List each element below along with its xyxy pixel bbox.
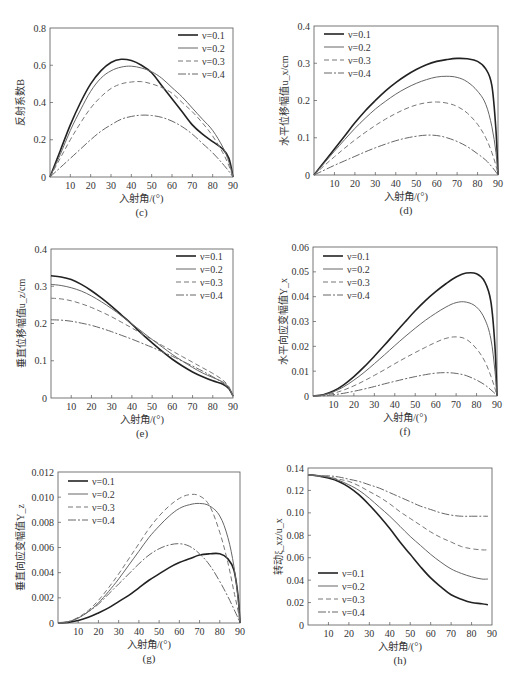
legend-label: ν=0.4 [348,68,371,79]
chart-panel-f: 10203040506070809000.010.020.030.040.050… [277,242,502,439]
y-tick-label: 0.06 [287,552,305,563]
legend-label: ν=0.1 [202,30,225,41]
y-tick-label: 0 [299,620,304,631]
legend-label: ν=0.4 [200,290,223,301]
series-line-2 [313,302,497,396]
y-tick-label: 0.3 [298,58,311,69]
legend: ν=0.1ν=0.2ν=0.3ν=0.4 [318,568,365,618]
legend-label: ν=0.1 [200,251,223,262]
x-tick-label: 60 [426,628,436,639]
legend: ν=0.1ν=0.2ν=0.3ν=0.4 [324,29,371,79]
y-tick-label: 0.10 [287,507,305,518]
y-tick-label: 0.1 [298,132,311,143]
x-tick-label: 30 [106,180,116,191]
series-line-1 [313,273,497,396]
legend-label: ν=0.1 [342,568,365,579]
y-axis: 00.020.040.060.080.100.120.14 [287,463,312,631]
series-line-3 [51,298,233,396]
series-line-3 [50,81,233,177]
x-tick-label: 90 [235,626,245,637]
x-axis-title: 入射角/(°) [378,640,423,653]
y-tick-label: 0.2 [298,95,311,106]
legend-label: ν=0.1 [348,29,371,40]
chart-panel-e: 10203040506070809000.10.20.30.4入射角/(°)(e… [15,244,238,441]
x-tick-label: 50 [411,178,421,189]
legend-label: ν=0.4 [92,515,115,526]
y-axis-title: 转动ξ_xz/u_x [272,518,285,575]
legend-label: ν=0.3 [342,594,365,605]
y-axis-title: 水平位移幅值u_x/cm [278,55,290,145]
x-tick-label: 90 [493,178,503,189]
y-axis-title: 垂直向应变幅值Y_z [14,504,26,591]
y-tick-label: 0.8 [34,23,47,34]
series-group [308,475,488,605]
y-tick-label: 0.04 [292,291,310,302]
x-tick-label: 60 [167,180,177,191]
x-tick-label: 10 [73,626,83,637]
x-axis-title: 入射角/(°) [384,190,429,203]
x-axis: 102030405060708090 [328,393,502,410]
x-axis: 102030405060708090 [65,174,238,191]
x-tick-label: 10 [328,399,338,410]
chart-panel-c: 10203040506070809000.20.40.60.8入射角/(°)(c… [14,23,238,220]
legend: ν=0.1ν=0.2ν=0.3ν=0.4 [178,30,225,80]
legend-label: ν=0.4 [347,290,370,301]
x-axis: 102030405060708090 [73,620,245,637]
x-tick-label: 10 [66,401,76,412]
y-axis: 00.010.020.030.040.050.06 [292,242,317,402]
legend-label: ν=0.3 [200,277,223,288]
x-tick-label: 30 [369,399,379,410]
y-tick-label: 0 [42,393,47,404]
x-tick-label: 20 [350,178,360,189]
x-tick-label: 30 [107,401,117,412]
series-line-3 [58,494,240,623]
plot-frame [58,472,240,623]
x-tick-label: 70 [188,401,198,412]
x-tick-label: 40 [134,626,144,637]
x-tick-label: 90 [228,180,238,191]
x-tick-label: 10 [329,178,339,189]
x-tick-label: 90 [228,401,238,412]
series-line-2 [50,66,233,177]
x-axis-title: 入射角/(°) [120,413,165,426]
chart-panel-d: 10203040506070809000.10.20.30.4入射角/(°)(d… [278,21,503,218]
legend: ν=0.1ν=0.2ν=0.3ν=0.4 [68,476,115,526]
x-tick-label: 50 [147,401,157,412]
figure-caption: (e) [136,427,149,440]
y-tick-label: 0.002 [32,592,55,603]
legend-label: ν=0.2 [347,264,370,275]
series-group [314,58,498,175]
series-line-1 [314,58,498,175]
legend-label: ν=0.4 [342,607,365,618]
x-axis: 102030405060708090 [323,622,497,639]
x-tick-label: 80 [473,178,483,189]
legend-label: ν=0.2 [348,42,371,53]
x-tick-label: 20 [86,401,96,412]
y-tick-label: 0.4 [34,97,47,108]
x-tick-label: 10 [323,628,333,639]
y-tick-label: 0.08 [287,530,305,541]
x-tick-label: 80 [208,180,218,191]
series-line-1 [308,475,488,605]
legend: ν=0.1ν=0.2ν=0.3ν=0.4 [176,251,223,301]
x-tick-label: 10 [65,180,75,191]
x-tick-label: 40 [127,401,137,412]
y-axis-title: 水平向应变幅值Y_x [277,278,289,365]
y-tick-label: 0 [304,391,309,402]
y-tick-label: 0.004 [32,567,55,578]
legend-label: ν=0.2 [92,489,115,500]
y-tick-label: 0.04 [287,575,305,586]
x-tick-label: 40 [126,180,136,191]
legend-label: ν=0.2 [342,581,365,592]
plot-frame [314,26,498,175]
y-tick-label: 0.2 [35,318,48,329]
x-tick-label: 30 [114,626,124,637]
x-tick-label: 20 [86,180,96,191]
y-tick-label: 0.03 [292,316,310,327]
x-tick-label: 20 [93,626,103,637]
x-tick-label: 70 [187,180,197,191]
series-group [58,494,240,623]
x-tick-label: 60 [432,178,442,189]
x-axis-title: 入射角/(°) [119,192,164,205]
y-tick-label: 0.1 [35,355,48,366]
